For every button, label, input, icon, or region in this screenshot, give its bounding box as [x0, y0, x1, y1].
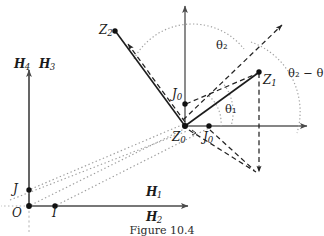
- angle-label-theta2: θ₂: [216, 40, 228, 52]
- dot-Z0: [182, 123, 188, 129]
- point-label-J0-upper: J0: [172, 88, 182, 102]
- dot-J: [26, 187, 31, 192]
- dashed-J0-to-lowerright: [210, 130, 254, 170]
- angle-label-theta1: θ₁: [225, 104, 237, 116]
- point-label-Z1: Z1: [263, 74, 277, 88]
- point-label-Z2: Z2: [99, 24, 113, 38]
- solid-vectors-group: [116, 32, 258, 126]
- axis-label-H3: H3: [39, 58, 55, 72]
- projection-line-O-to-Z0: [31, 128, 186, 205]
- dot-O: [26, 203, 32, 209]
- axis-label-H1: H1: [146, 186, 162, 200]
- figure-caption: Figure 10.4: [0, 224, 324, 236]
- dot-J0-up: [182, 101, 187, 106]
- dashed-construction-group: [128, 25, 282, 172]
- point-label-Z0: Z0: [172, 131, 186, 145]
- point-label-I: I: [52, 207, 57, 219]
- projection-line-J-to-J0: [31, 124, 184, 189]
- dot-Z1: [256, 69, 261, 74]
- point-label-O: O: [12, 207, 22, 219]
- point-label-J0-right: J0: [203, 131, 213, 145]
- angle-label-theta2-minus-theta: θ₂ − θ: [288, 68, 323, 80]
- dot-Z2: [112, 28, 117, 33]
- vector-Z0-Z2: [116, 32, 185, 126]
- projection-line-I-to-J0right: [57, 128, 209, 205]
- figure-10-4: Z2 Z1 Z0 J0 J0 J O I H4 H3 H1 H2 θ₂ θ₁ θ…: [0, 0, 324, 236]
- dot-J0-rt: [206, 123, 211, 128]
- point-label-J: J: [13, 183, 18, 195]
- axis-label-H4: H4: [14, 58, 30, 72]
- dashed-Z0-to-lowerright: [189, 130, 256, 172]
- axis-label-H2: H2: [146, 211, 162, 225]
- figure-vector-canvas: [0, 0, 324, 236]
- point-dots-group: [26, 28, 262, 209]
